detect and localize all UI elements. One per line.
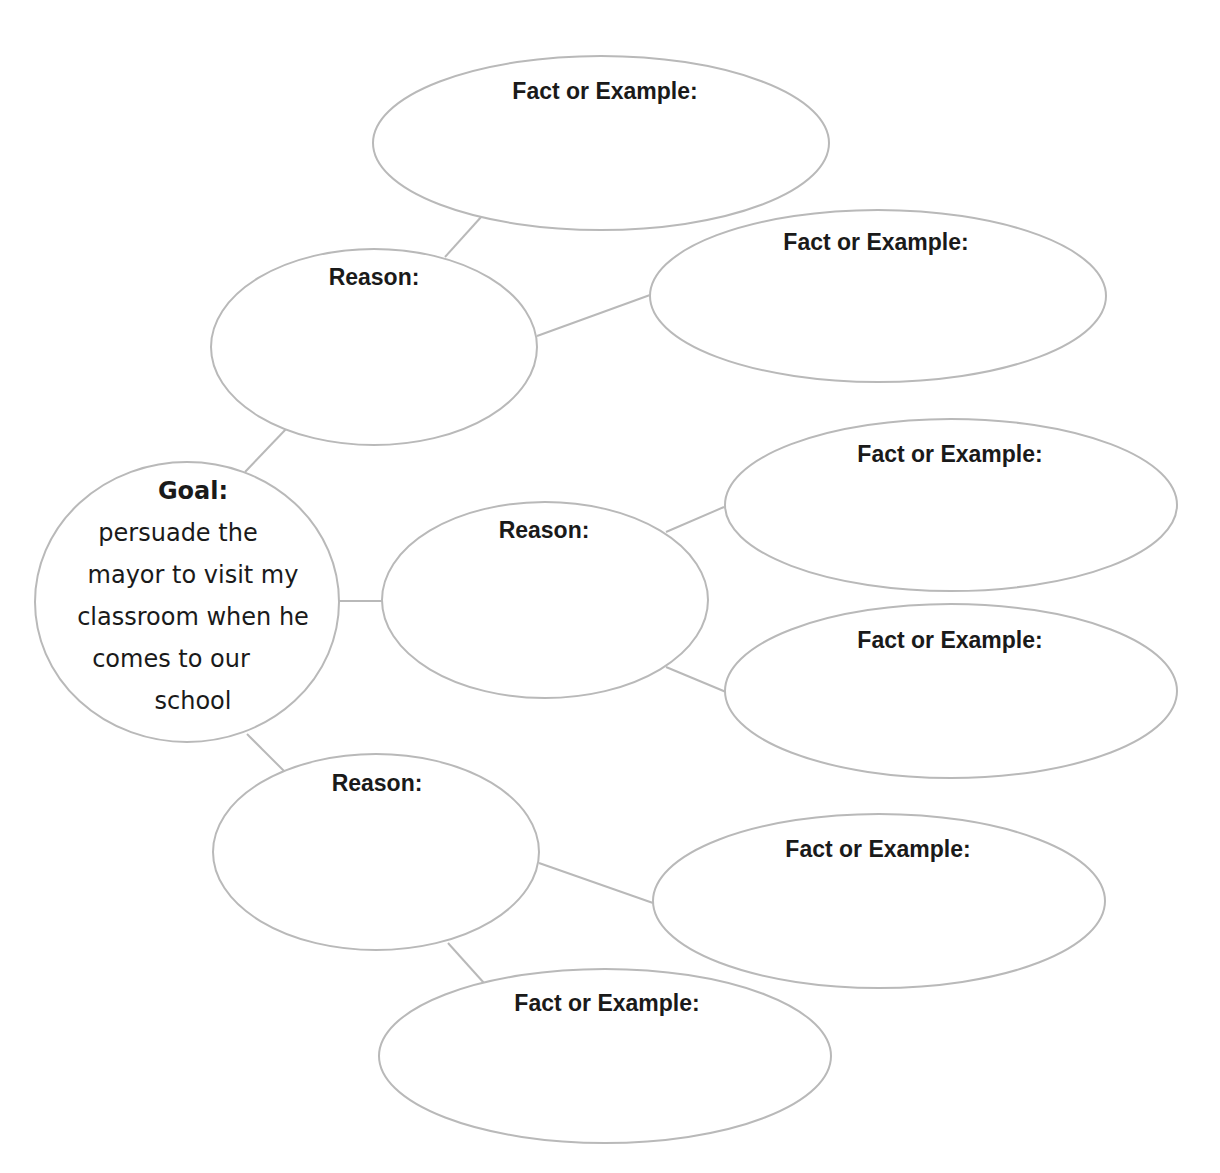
goal-node: Goal: persuade the mayor to visit my cla… bbox=[43, 470, 343, 722]
goal-text-line: persuade the bbox=[43, 512, 343, 554]
connector-reason-1-fact-top bbox=[445, 216, 482, 257]
connector-reason-3-fact-bottom bbox=[448, 943, 484, 983]
connector-reason-3-fact-right bbox=[539, 863, 653, 903]
fact-2a-label: Fact or Example: bbox=[857, 441, 1042, 468]
connector-reason-2-fact-2 bbox=[666, 667, 726, 692]
connector-goal-reason-3 bbox=[247, 734, 285, 772]
connector-reason-2-fact-1 bbox=[666, 507, 724, 532]
goal-text-line: comes to our bbox=[43, 638, 343, 680]
fact-3a-label: Fact or Example: bbox=[785, 836, 970, 863]
fact-1b-label: Fact or Example: bbox=[783, 229, 968, 256]
goal-text-line: school bbox=[43, 680, 343, 722]
goal-text-line: classroom when he bbox=[43, 596, 343, 638]
reason-1-label: Reason: bbox=[329, 264, 420, 291]
fact-2b-label: Fact or Example: bbox=[857, 627, 1042, 654]
goal-text-line: mayor to visit my bbox=[43, 554, 343, 596]
reason-2-label: Reason: bbox=[499, 517, 590, 544]
goal-heading: Goal: bbox=[43, 470, 343, 512]
fact-3b-label: Fact or Example: bbox=[514, 990, 699, 1017]
reason-3-label: Reason: bbox=[332, 770, 423, 797]
fact-1a-label: Fact or Example: bbox=[512, 78, 697, 105]
connector-reason-1-fact-right bbox=[537, 295, 650, 336]
connector-goal-reason-1 bbox=[245, 428, 287, 472]
